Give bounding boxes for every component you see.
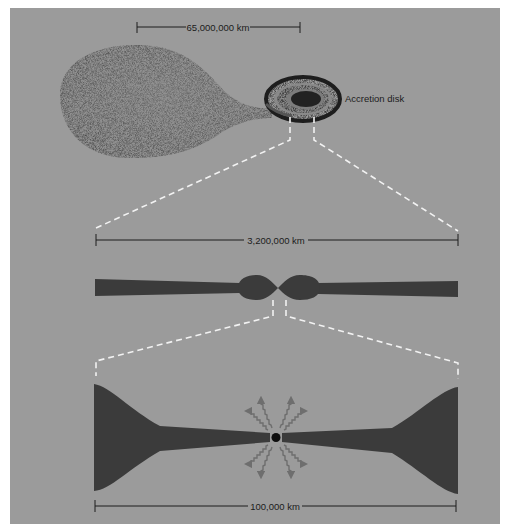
scale-bar-bottom: 100,000 km	[95, 499, 456, 512]
scale-bar-top: 65,000,000 km	[137, 20, 300, 33]
edge-on-disk	[95, 275, 458, 300]
accretion-diagram: 65,000,000 km Accretion disk 3,200,000 k…	[0, 0, 507, 530]
accretion-disk-label: Accretion disk	[345, 93, 404, 104]
scale-label-bottom: 100,000 km	[250, 501, 300, 512]
accretion-disk-top	[266, 77, 340, 121]
compact-object-icon	[272, 433, 281, 442]
scale-bar-middle: 3,200,000 km	[96, 233, 458, 246]
companion-star	[60, 45, 272, 158]
scale-label-top: 65,000,000 km	[187, 22, 250, 33]
scale-label-middle: 3,200,000 km	[247, 235, 305, 246]
zoom-guide-2	[96, 300, 458, 379]
